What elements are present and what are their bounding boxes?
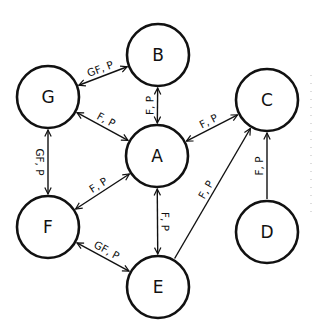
node-c: C	[236, 69, 298, 131]
network-diagram: GF, PF, PF, PF, PGF, PF, PGF, PF, PF, PF…	[0, 0, 315, 334]
edge-g-a: F, P	[77, 110, 128, 141]
edge-label: F, P	[196, 178, 216, 200]
edge-label: GF, P	[34, 148, 46, 175]
node-g: G	[17, 66, 79, 128]
node-label: G	[41, 87, 54, 107]
node-label: D	[260, 222, 273, 242]
node-d: D	[236, 201, 298, 263]
edge-label: F, P	[87, 175, 110, 195]
node-a: A	[126, 125, 188, 187]
node-e: E	[127, 256, 189, 318]
node-b: B	[127, 24, 189, 86]
edge-g-b: GF, P	[79, 58, 127, 85]
node-label: B	[152, 45, 164, 65]
edge-g-f: GF, P	[34, 130, 48, 194]
edge-label: F, P	[253, 156, 265, 175]
edge-a-e: F, P	[157, 189, 171, 254]
edge-f-a: F, P	[76, 174, 130, 209]
node-label: E	[153, 277, 164, 297]
edge-f-e: GF, P	[77, 238, 129, 271]
node-label: A	[151, 146, 163, 166]
edge-d-c: F, P	[253, 133, 267, 199]
node-label: C	[261, 90, 273, 110]
edge-label: F, P	[197, 111, 219, 130]
edge-a-c: F, P	[186, 111, 237, 141]
edge-label: GF, P	[92, 238, 122, 262]
edge-label: GF, P	[85, 58, 115, 79]
node-label: F	[43, 217, 53, 237]
node-f: F	[17, 196, 79, 258]
edge-label: F, P	[159, 212, 171, 231]
edge-label: F, P	[143, 96, 155, 115]
edge-b-a: F, P	[143, 88, 157, 123]
edge-label: F, P	[95, 110, 117, 130]
